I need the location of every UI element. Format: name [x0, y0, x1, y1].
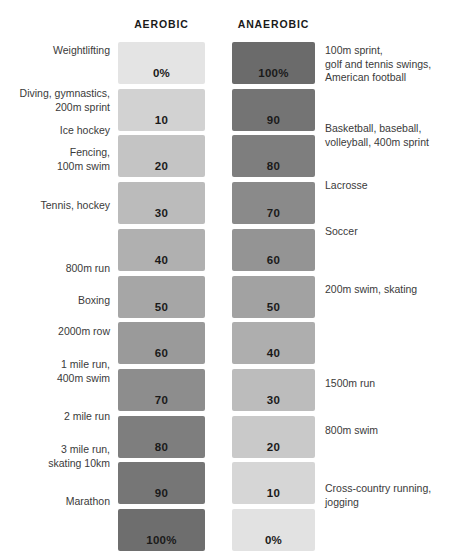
anaerobic-bar-value: 10 [232, 487, 315, 499]
anaerobic-bar: 60 [232, 229, 315, 271]
aerobic-bar-value: 40 [118, 254, 205, 266]
aerobic-bar: 80 [118, 416, 205, 458]
aerobic-bar-value: 90 [118, 487, 205, 499]
sport-label-aerobic: 3 mile run,skating 10km [0, 443, 110, 470]
sport-label-aerobic: Weightlifting [0, 44, 110, 58]
sport-label-anaerobic: Cross-country running,jogging [325, 482, 448, 509]
aerobic-bar-value: 80 [118, 441, 205, 453]
aerobic-bar: 30 [118, 182, 205, 224]
column-header-aerobic: AEROBIC [118, 18, 205, 30]
anaerobic-bar: 80 [232, 135, 315, 177]
aerobic-bar: 70 [118, 369, 205, 411]
sport-label-aerobic: Fencing,100m swim [0, 146, 110, 173]
anaerobic-bar: 10 [232, 462, 315, 504]
sport-label-anaerobic: 200m swim, skating [325, 283, 448, 297]
sport-label-aerobic: 2 mile run [0, 410, 110, 424]
aerobic-bar-value: 30 [118, 207, 205, 219]
aerobic-bar-value: 0% [118, 67, 205, 79]
aerobic-bar-value: 100% [118, 534, 205, 546]
sport-label-aerobic: 2000m row [0, 325, 110, 339]
sport-label-anaerobic: Basketball, baseball,volleyball, 400m sp… [325, 122, 448, 149]
anaerobic-bar: 20 [232, 416, 315, 458]
sport-label-aerobic: 800m run [0, 262, 110, 276]
aerobic-bar: 0% [118, 42, 205, 84]
anaerobic-bar-value: 30 [232, 394, 315, 406]
sport-label-anaerobic: 1500m run [325, 377, 448, 391]
anaerobic-bar: 50 [232, 276, 315, 318]
anaerobic-bar: 90 [232, 89, 315, 131]
column-header-anaerobic: ANAEROBIC [232, 18, 315, 30]
sport-label-anaerobic: 800m swim [325, 424, 448, 438]
sport-label-aerobic: Marathon [0, 495, 110, 509]
sport-label-aerobic: Ice hockey [0, 124, 110, 138]
anaerobic-bar-value: 0% [232, 534, 315, 546]
aerobic-bar-value: 70 [118, 394, 205, 406]
aerobic-bar-value: 50 [118, 301, 205, 313]
aerobic-bar: 20 [118, 135, 205, 177]
anaerobic-bar-value: 90 [232, 114, 315, 126]
aerobic-bar: 100% [118, 509, 205, 551]
sport-label-anaerobic: 100m sprint,golf and tennis swings,Ameri… [325, 44, 448, 85]
anaerobic-bar: 0% [232, 509, 315, 551]
anaerobic-bar: 30 [232, 369, 315, 411]
sport-label-aerobic: 1 mile run,400m swim [0, 358, 110, 385]
anaerobic-bar-value: 100% [232, 67, 315, 79]
anaerobic-bar-value: 80 [232, 160, 315, 172]
aerobic-bar: 90 [118, 462, 205, 504]
anaerobic-bar: 100% [232, 42, 315, 84]
anaerobic-bar-value: 60 [232, 254, 315, 266]
sport-label-aerobic: Tennis, hockey [0, 199, 110, 213]
anaerobic-bar-value: 20 [232, 441, 315, 453]
sport-label-aerobic: Boxing [0, 294, 110, 308]
anaerobic-bar-value: 40 [232, 347, 315, 359]
sport-label-anaerobic: Lacrosse [325, 179, 448, 193]
aerobic-bar-value: 10 [118, 114, 205, 126]
aerobic-bar: 60 [118, 322, 205, 364]
aerobic-bar: 50 [118, 276, 205, 318]
anaerobic-bar-value: 50 [232, 301, 315, 313]
aerobic-bar: 40 [118, 229, 205, 271]
aerobic-bar-value: 60 [118, 347, 205, 359]
sport-label-aerobic: Diving, gymnastics,200m sprint [0, 87, 110, 114]
sport-label-anaerobic: Soccer [325, 225, 448, 239]
aerobic-bar-value: 20 [118, 160, 205, 172]
anaerobic-bar: 70 [232, 182, 315, 224]
anaerobic-bar: 40 [232, 322, 315, 364]
aerobic-bar: 10 [118, 89, 205, 131]
anaerobic-bar-value: 70 [232, 207, 315, 219]
